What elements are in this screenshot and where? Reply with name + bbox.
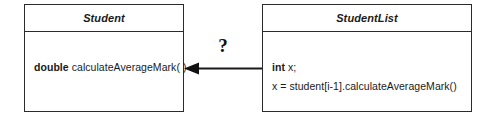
uml-member-calculate-average-mark: double calculateAverageMark( ) (34, 61, 186, 73)
uml-class-studentlist-name: StudentList (336, 12, 398, 24)
connector-arrow (184, 60, 264, 78)
uml-class-student-name: Student (83, 12, 125, 24)
uml-class-studentlist-header: StudentList (263, 5, 471, 32)
uml-member-text: calculateAverageMark( ) (72, 61, 187, 73)
connector-arrow-svg (184, 60, 264, 78)
uml-class-student-header: Student (25, 5, 183, 32)
uml-member-int-x: int x; (272, 61, 296, 73)
uml-member-assignment-statement: x = student[i-1].calculateAverageMark() (272, 80, 457, 92)
uml-class-student[interactable]: Student double calculateAverageMark( ) (24, 4, 184, 112)
uml-member-text: x; (288, 61, 296, 73)
diagram-canvas: Student double calculateAverageMark( ) ?… (0, 0, 495, 125)
uml-member-text: x = student[i-1].calculateAverageMark() (272, 80, 457, 92)
connector-arrowhead-icon (184, 62, 199, 74)
uml-member-keyword: int (272, 61, 285, 73)
uml-class-studentlist[interactable]: StudentList int x; x = student[i-1].calc… (262, 4, 472, 112)
connector-question-label: ? (210, 36, 236, 55)
uml-member-keyword: double (34, 61, 69, 73)
uml-class-student-body: double calculateAverageMark( ) (25, 32, 183, 111)
uml-class-studentlist-body: int x; x = student[i-1].calculateAverage… (263, 32, 471, 111)
